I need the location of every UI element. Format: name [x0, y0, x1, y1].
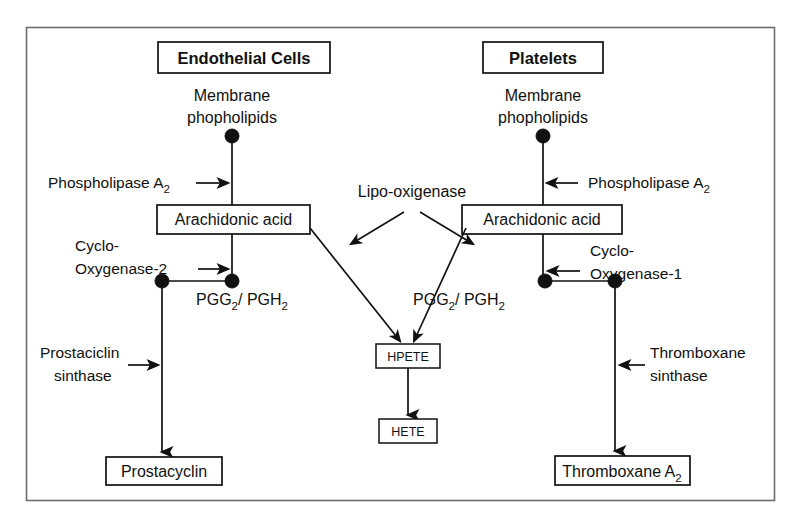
left-enzyme2-line1: Cyclo- [75, 237, 119, 254]
center-enzyme-arrow-left [351, 212, 404, 244]
right-arachidonic-label: Arachidonic acid [483, 211, 600, 228]
left-arachidonic-label: Arachidonic acid [175, 211, 292, 228]
left-pgg-dot-inner [225, 274, 239, 288]
hete-label: HETE [391, 425, 424, 439]
right-substrate-line2: phopholipids [498, 109, 588, 126]
right-substrate-line1: Membrane [505, 87, 582, 104]
left-product-label: Prostacyclin [121, 463, 207, 480]
right-pgg-dot-inner [538, 274, 552, 288]
left-enzyme1-text: Phospholipase A [48, 174, 164, 191]
left-enzyme1-subscript: 2 [163, 183, 169, 195]
pathway-diagram: Endothelial Cells Membrane phopholipids … [0, 0, 795, 522]
left-header-label: Endothelial Cells [178, 49, 311, 67]
right-enzyme2-line1: Cyclo- [590, 242, 634, 259]
right-enzyme1-label: Phospholipase A2 [588, 174, 710, 195]
center-enzyme-label: Lipo-oxigenase [358, 183, 467, 200]
right-enzyme1-text: Phospholipase A [588, 174, 704, 191]
right-enzyme3-line1: Thromboxane [650, 344, 746, 361]
right-product-text: Thromboxane A [562, 463, 675, 480]
left-enzyme3-line1: Prostaciclin [40, 344, 119, 361]
right-endoperoxide-label: PGG2/ PGH2 [413, 291, 505, 312]
left-enzyme3-line2: sinthase [54, 367, 112, 384]
pathway-canvas: Endothelial Cells Membrane phopholipids … [0, 0, 795, 522]
right-enzyme3-line2: sinthase [650, 367, 708, 384]
right-endoperoxide-pgh-sub: 2 [499, 300, 505, 312]
right-arachidonic-to-hpete-line [414, 228, 466, 341]
right-pgg-dot-outer [608, 274, 622, 288]
right-enzyme1-subscript: 2 [703, 183, 709, 195]
hpete-label: HPETE [387, 350, 429, 364]
left-substrate-line1: Membrane [194, 87, 271, 104]
left-endoperoxide-pgg: PGG [196, 291, 232, 308]
left-arachidonic-to-hpete-line [310, 228, 400, 341]
left-endoperoxide-label: PGG2/ PGH2 [196, 291, 288, 312]
left-endoperoxide-pgh-sub: 2 [282, 300, 288, 312]
right-header-label: Platelets [509, 49, 577, 67]
right-endoperoxide-sep: / PGH [455, 291, 499, 308]
right-product-subscript: 2 [675, 472, 681, 484]
left-endoperoxide-sep: / PGH [238, 291, 282, 308]
right-enzyme2-line2: Oxygenase-1 [590, 265, 682, 282]
left-substrate-line2: phopholipids [187, 109, 277, 126]
left-pgg-dot-outer [155, 274, 169, 288]
left-enzyme1-label: Phospholipase A2 [48, 174, 170, 195]
left-enzyme2-line2: Oxygenase-2 [75, 260, 167, 277]
